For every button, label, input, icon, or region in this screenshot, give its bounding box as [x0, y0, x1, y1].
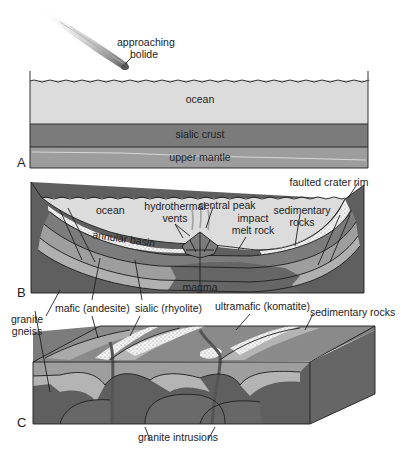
impact-crater-diagram: approaching bolide ocean sialic crust up…: [0, 0, 401, 456]
impact-melt-label-2: melt rock: [232, 224, 275, 236]
bolide-icon: [38, 8, 129, 70]
sialic-crust-label: sialic crust: [175, 128, 224, 140]
granite-intrusions-label: granite intrusions: [138, 431, 218, 443]
ocean-label: ocean: [186, 93, 215, 105]
hydrothermal-label-2: vents: [162, 212, 187, 224]
panel-c: granite gneiss mafic (andesite) sialic (…: [11, 300, 395, 443]
panel-a: approaching bolide ocean sialic crust up…: [17, 8, 369, 170]
granite-gneiss-label-2: gneiss: [12, 325, 42, 337]
sedimentary-rocks-label: sedimentary rocks: [310, 306, 395, 318]
bolide-label-2: bolide: [130, 48, 158, 60]
granite-gneiss-label-1: granite: [11, 313, 43, 325]
panel-letter-a: A: [17, 155, 26, 170]
mafic-andesite-label: mafic (andesite): [55, 302, 130, 314]
ultramafic-komatite-label: ultramafic (komatite): [215, 300, 310, 312]
panel-b: faulted crater rim ocean hydrothermal ve…: [17, 176, 369, 316]
impact-melt-label-1: impact: [238, 212, 269, 224]
sedimentary-label-2: rocks: [289, 216, 314, 228]
panel-letter-c: C: [17, 415, 26, 430]
hydrothermal-label-1: hydrothermal: [144, 200, 205, 212]
ocean-label-b: ocean: [96, 204, 125, 216]
sialic-rhyolite-label: sialic (rhyolite): [135, 302, 202, 314]
central-peak-label: central peak: [198, 199, 256, 211]
bolide-label-1: approaching: [117, 36, 175, 48]
magma-label: magma: [182, 281, 217, 293]
sedimentary-label-1: sedimentary: [273, 204, 331, 216]
faulted-crater-rim-label: faulted crater rim: [290, 176, 369, 188]
panel-letter-b: B: [17, 285, 26, 300]
upper-mantle-label: upper mantle: [169, 151, 230, 163]
